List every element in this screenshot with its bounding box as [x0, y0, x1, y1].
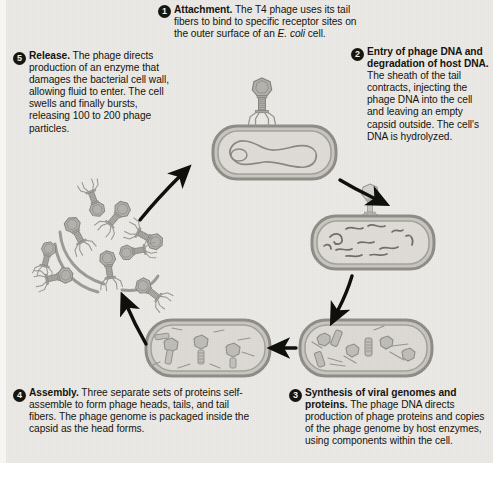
- illustration-bacterium-with-assembled-phages: [146, 320, 270, 376]
- step-caption-5: Release. The phage directs production of…: [29, 50, 169, 135]
- step-badge-4: 4: [13, 389, 26, 402]
- bottom-white-margin: [0, 463, 493, 489]
- step-caption-1: Attachment. The T4 phage uses its tail f…: [174, 4, 360, 40]
- step-heading-4: Assembly.: [29, 387, 79, 398]
- released-phage-particles: [32, 177, 174, 313]
- step-caption-3: Synthesis of viral genomes and proteins.…: [305, 387, 487, 447]
- step-body-2: The sheath of the tail contracts, inject…: [367, 70, 479, 141]
- step-caption-4: Assembly. Three separate sets of protein…: [29, 387, 257, 435]
- illustration-bacterium-with-phage-parts: [300, 320, 432, 376]
- bacterium-cell-1: [213, 126, 336, 179]
- step-badge-2: 2: [351, 48, 364, 61]
- step-badge-5: 5: [13, 52, 26, 65]
- step-italic-1: E. coli: [278, 28, 305, 39]
- step-body-post-1: cell.: [305, 28, 326, 39]
- lytic-cycle-figure: 1 Attachment. The T4 phage uses its tail…: [0, 0, 493, 489]
- step-heading-1: Attachment.: [174, 4, 232, 15]
- arrow-step5-to-step1: [140, 174, 182, 220]
- step-heading-2: Entry of phage DNA and degradation of ho…: [367, 46, 489, 69]
- arrow-step2-to-step3: [336, 276, 352, 314]
- illustration-burst-cell-releasing-phages: [32, 177, 174, 313]
- step-badge-1: 1: [158, 5, 171, 18]
- step-caption-2: Entry of phage DNA and degradation of ho…: [367, 46, 489, 143]
- step-heading-5: Release.: [29, 50, 70, 61]
- phage-particle-attached: [249, 78, 276, 127]
- step-body-5: The phage directs production of an enzym…: [29, 50, 169, 134]
- arrow-step4-to-step5: [126, 304, 146, 344]
- left-margin-strip: [0, 0, 6, 489]
- step-badge-3: 3: [289, 389, 302, 402]
- illustration-phage-attached-to-bacterium: [213, 78, 336, 179]
